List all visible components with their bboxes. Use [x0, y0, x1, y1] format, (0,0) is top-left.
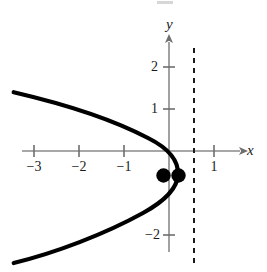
y-tick-label-pos1: 1 — [151, 102, 158, 116]
x-tick-label-neg3: −3 — [27, 160, 42, 174]
parabola-figure: −3 −2 −1 1 2 1 −2 x y — [0, 0, 267, 272]
focus-point — [156, 168, 170, 182]
x-tick-label-neg1: −1 — [117, 160, 132, 174]
y-tick-label-pos2: 2 — [151, 60, 158, 74]
y-axis-label: y — [166, 17, 173, 32]
x-tick-label-neg2: −2 — [72, 160, 87, 174]
vertex-point — [171, 168, 185, 182]
plot-canvas — [0, 0, 267, 272]
x-tick-label-pos1: 1 — [211, 160, 218, 174]
y-tick-label-neg2: −2 — [145, 228, 160, 242]
x-axis-label: x — [247, 143, 254, 158]
